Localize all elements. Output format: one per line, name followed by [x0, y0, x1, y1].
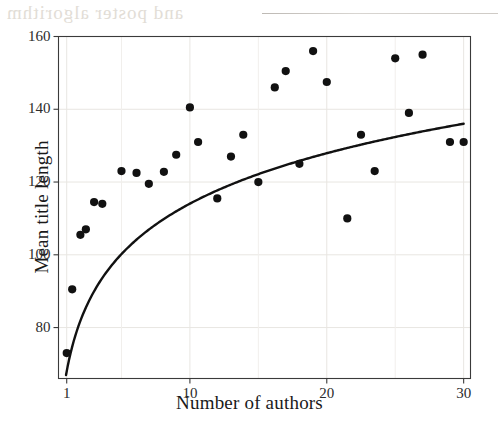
data-point	[239, 131, 247, 139]
data-point	[271, 83, 279, 91]
data-point	[213, 194, 221, 202]
data-points	[63, 47, 468, 357]
data-point	[295, 160, 303, 168]
y-tick-label: 160	[11, 28, 51, 45]
data-point	[391, 54, 399, 62]
y-axis-title: Mean title length	[31, 87, 53, 327]
x-tick-label: 1	[47, 385, 87, 402]
data-point	[82, 225, 90, 233]
y-tick-label: 120	[11, 173, 51, 190]
data-point	[323, 78, 331, 86]
data-point	[418, 51, 426, 59]
logarithmic-fit-curve	[66, 124, 464, 375]
y-tick-label: 80	[11, 319, 51, 336]
y-tick-label: 100	[11, 246, 51, 263]
scatter-plot-svg	[0, 0, 499, 424]
data-point	[343, 214, 351, 222]
data-point	[160, 168, 168, 176]
data-point	[172, 151, 180, 159]
data-point	[371, 167, 379, 175]
data-point	[98, 200, 106, 208]
data-point	[460, 138, 468, 146]
figure-container: and poster algorithm Number of authors M…	[0, 0, 499, 424]
fit-curve	[66, 124, 464, 375]
data-point	[227, 152, 235, 160]
data-point	[405, 109, 413, 117]
data-point	[90, 198, 98, 206]
x-tick-label: 20	[307, 385, 347, 402]
data-point	[254, 178, 262, 186]
data-point	[63, 349, 71, 357]
grid-lines	[59, 37, 471, 379]
y-tick-label: 140	[11, 100, 51, 117]
x-tick-label: 10	[170, 385, 210, 402]
data-point	[194, 138, 202, 146]
data-point	[309, 47, 317, 55]
data-point	[117, 167, 125, 175]
data-point	[145, 180, 153, 188]
data-point	[446, 138, 454, 146]
data-point	[186, 103, 194, 111]
data-point	[68, 285, 76, 293]
data-point	[132, 169, 140, 177]
x-tick-label: 30	[444, 385, 484, 402]
data-point	[357, 131, 365, 139]
data-point	[282, 67, 290, 75]
